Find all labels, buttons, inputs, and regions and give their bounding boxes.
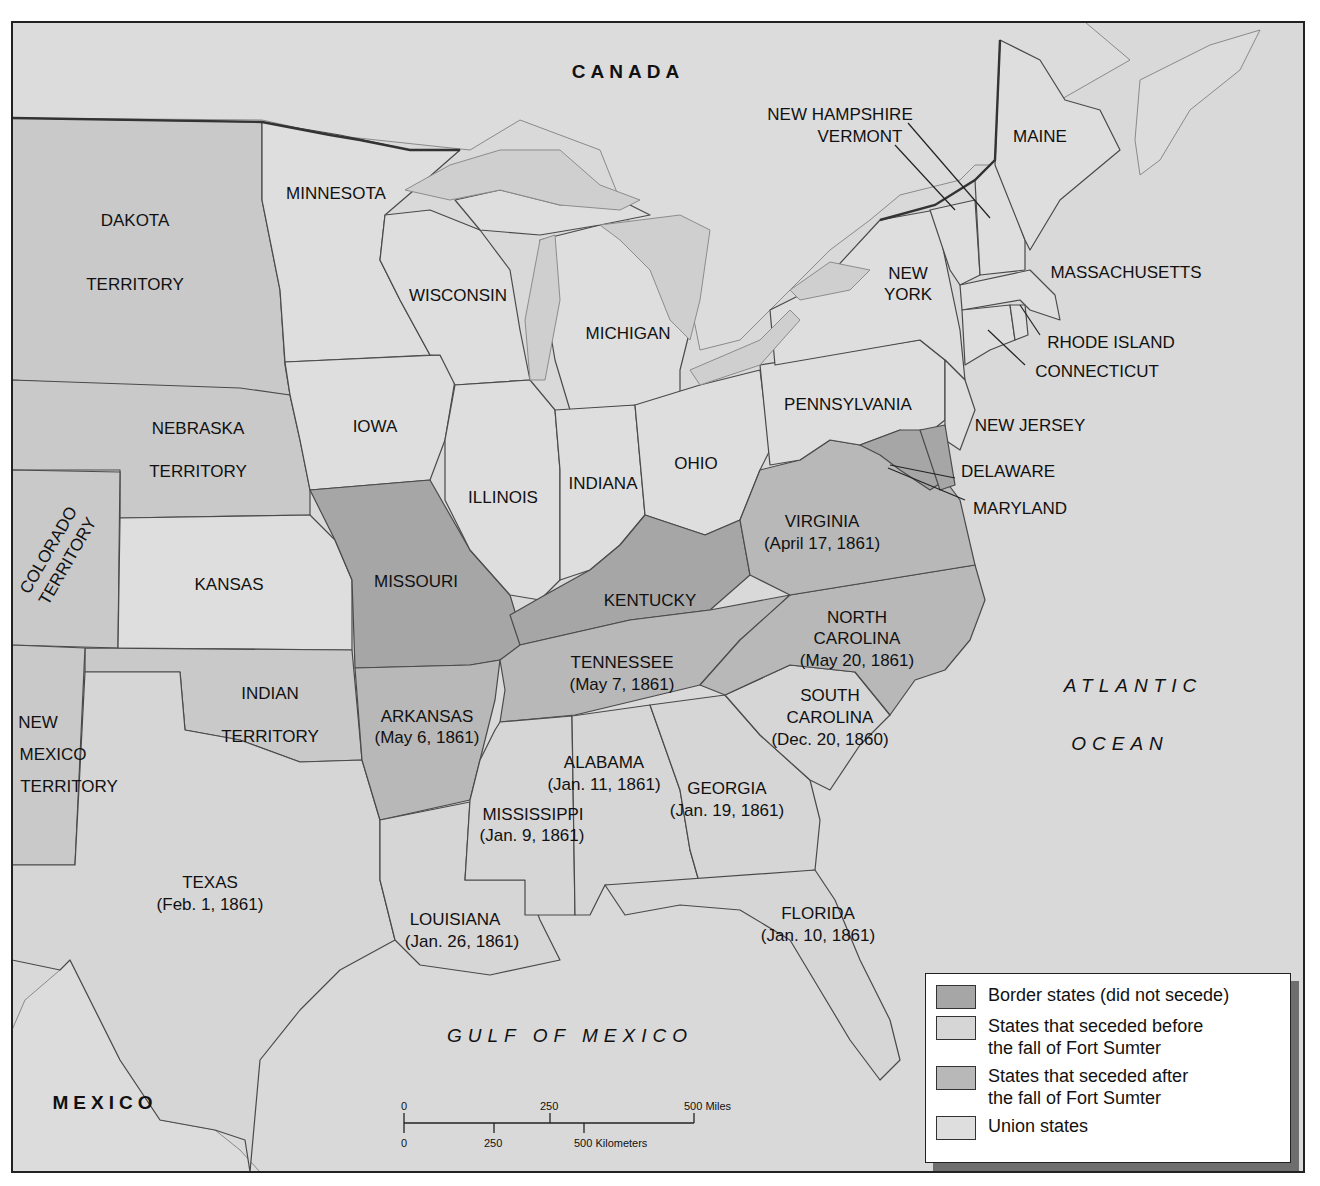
legend-item-union: Union states [936, 1115, 1280, 1140]
state-dakota-territory [12, 118, 290, 395]
label-kansas: KANSAS [195, 575, 264, 594]
label-nebraska: NEBRASKA [152, 419, 245, 438]
legend-swatch-border [936, 985, 976, 1009]
label-louisiana: LOUISIANA [410, 910, 501, 929]
legend-swatch-seceded-before [936, 1016, 976, 1040]
label-north-carolina-1: NORTH [827, 608, 887, 627]
scale-km-250: 250 [484, 1137, 502, 1149]
label-iowa: IOWA [353, 417, 398, 436]
label-south-carolina-date: (Dec. 20, 1860) [771, 730, 888, 749]
label-arkansas: ARKANSAS [381, 707, 474, 726]
label-alabama: ALABAMA [564, 753, 645, 772]
label-indian: INDIAN [241, 684, 299, 703]
label-virginia-date: (April 17, 1861) [764, 534, 880, 553]
label-new-york-1: NEW [888, 264, 928, 283]
legend-item-seceded-before: States that seceded before the fall of F… [936, 1015, 1280, 1059]
label-maryland: MARYLAND [973, 499, 1067, 518]
label-south-carolina-2: CAROLINA [787, 708, 875, 727]
scale-mi-500: 500 Miles [684, 1100, 732, 1112]
legend-label-seceded-after-line2: the fall of Fort Sumter [988, 1088, 1161, 1108]
label-connecticut: CONNECTICUT [1035, 362, 1159, 381]
map-legend: Border states (did not secede) States th… [925, 973, 1291, 1163]
label-georgia-date: (Jan. 19, 1861) [670, 801, 784, 820]
label-new-mexico-2: MEXICO [19, 745, 86, 764]
label-florida-date: (Jan. 10, 1861) [761, 926, 875, 945]
label-mississippi: MISSISSIPPI [482, 805, 583, 824]
label-south-carolina-1: SOUTH [800, 686, 860, 705]
label-indiana: INDIANA [569, 474, 639, 493]
label-alabama-date: (Jan. 11, 1861) [547, 775, 660, 794]
label-new-mexico-1: NEW [18, 713, 58, 732]
legend-label-seceded-before: States that seceded before the fall of F… [988, 1015, 1203, 1059]
label-rhode-island: RHODE ISLAND [1047, 333, 1175, 352]
label-indian-territory: TERRITORY [221, 727, 319, 746]
label-texas-date: (Feb. 1, 1861) [157, 895, 264, 914]
label-north-carolina-date: (May 20, 1861) [800, 651, 914, 670]
label-massachusetts: MASSACHUSETTS [1050, 263, 1201, 282]
label-new-mexico-3: TERRITORY [20, 777, 118, 796]
legend-swatch-seceded-after [936, 1066, 976, 1090]
label-gulf-of-mexico: GULF OF MEXICO [447, 1025, 693, 1046]
legend-label-seceded-after: States that seceded after the fall of Fo… [988, 1065, 1188, 1109]
label-delaware: DELAWARE [961, 462, 1055, 481]
label-ocean: OCEAN [1071, 733, 1169, 754]
label-pennsylvania: PENNSYLVANIA [784, 395, 913, 414]
label-maine: MAINE [1013, 127, 1067, 146]
label-texas: TEXAS [182, 873, 238, 892]
label-ohio: OHIO [674, 454, 717, 473]
label-virginia: VIRGINIA [785, 512, 860, 531]
label-georgia: GEORGIA [687, 779, 767, 798]
label-illinois: ILLINOIS [468, 488, 538, 507]
legend-label-border: Border states (did not secede) [988, 984, 1229, 1006]
label-florida: FLORIDA [781, 904, 855, 923]
label-new-york-2: YORK [884, 285, 933, 304]
label-canada: CANADA [572, 61, 684, 82]
legend-label-seceded-before-line1: States that seceded before [988, 1016, 1203, 1036]
scale-mi-0: 0 [401, 1100, 407, 1112]
legend-label-seceded-after-line1: States that seceded after [988, 1066, 1188, 1086]
label-kentucky: KENTUCKY [604, 591, 697, 610]
label-dakota: DAKOTA [101, 211, 170, 230]
label-missouri: MISSOURI [374, 572, 458, 591]
label-michigan: MICHIGAN [586, 324, 671, 343]
label-dakota-territory: TERRITORY [86, 275, 184, 294]
label-new-hampshire: NEW HAMPSHIRE [767, 105, 912, 124]
label-tennessee-date: (May 7, 1861) [570, 675, 675, 694]
label-new-jersey: NEW JERSEY [975, 416, 1086, 435]
legend-label-union: Union states [988, 1115, 1088, 1137]
label-atlantic: ATLANTIC [1063, 675, 1202, 696]
label-vermont: VERMONT [818, 127, 903, 146]
legend-label-seceded-before-line2: the fall of Fort Sumter [988, 1038, 1161, 1058]
label-arkansas-date: (May 6, 1861) [375, 728, 480, 747]
scale-km-500: 500 Kilometers [574, 1137, 648, 1149]
scale-mi-250: 250 [540, 1100, 558, 1112]
label-minnesota: MINNESOTA [286, 184, 386, 203]
label-louisiana-date: (Jan. 26, 1861) [405, 932, 519, 951]
label-nebraska-territory: TERRITORY [149, 462, 247, 481]
label-mississippi-date: (Jan. 9, 1861) [480, 826, 585, 845]
legend-item-seceded-after: States that seceded after the fall of Fo… [936, 1065, 1280, 1109]
legend-swatch-union [936, 1116, 976, 1140]
legend-item-border: Border states (did not secede) [936, 984, 1280, 1009]
label-north-carolina-2: CAROLINA [814, 629, 902, 648]
label-wisconsin: WISCONSIN [409, 286, 507, 305]
label-mexico: MEXICO [53, 1092, 158, 1113]
scale-km-0: 0 [401, 1137, 407, 1149]
label-tennessee: TENNESSEE [571, 653, 674, 672]
